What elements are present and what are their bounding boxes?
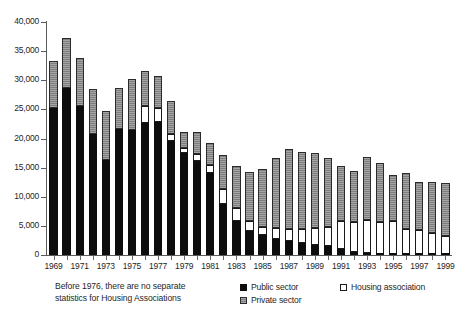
x-axis-tick xyxy=(341,256,342,260)
bar-segment-housing-association xyxy=(350,222,358,252)
bar-segment-public-sector xyxy=(180,153,188,255)
bar-segment-public-sector xyxy=(167,141,175,255)
x-axis-tick-label: 1993 xyxy=(354,261,380,271)
x-axis-tick-label: 1971 xyxy=(67,261,93,271)
x-axis-tick-label: 1973 xyxy=(93,261,119,271)
x-axis-tick xyxy=(145,256,146,260)
bar-segment-public-sector xyxy=(363,253,371,255)
x-axis-tick-label: 1997 xyxy=(406,261,432,271)
x-axis-tick xyxy=(171,256,172,260)
bar-segment-public-sector xyxy=(206,173,214,255)
x-axis-tick xyxy=(406,256,407,260)
x-axis-tick xyxy=(223,256,224,260)
bar-segment-housing-association xyxy=(258,227,266,235)
legend-label-private-sector: Private sector xyxy=(251,295,301,305)
bar-segment-private-sector xyxy=(245,172,253,222)
x-axis-tick xyxy=(393,256,394,260)
bar-segment-private-sector xyxy=(62,38,70,88)
bar-segment-public-sector xyxy=(428,253,436,255)
x-axis-tick xyxy=(236,256,237,260)
bar-1997 xyxy=(415,182,423,255)
bar-segment-public-sector xyxy=(128,130,136,255)
bar-segment-private-sector xyxy=(415,182,423,230)
bar-segment-private-sector xyxy=(180,132,188,148)
x-axis-tick xyxy=(276,256,277,260)
bar-segment-private-sector xyxy=(350,171,358,222)
bar-segment-public-sector xyxy=(311,245,319,255)
x-axis-tick xyxy=(328,256,329,260)
bar-segment-private-sector xyxy=(167,101,175,135)
bar-segment-private-sector xyxy=(102,111,110,160)
y-axis-tick-label: 25,000 xyxy=(0,103,39,113)
x-axis-tick xyxy=(419,256,420,260)
x-axis-tick xyxy=(263,256,264,260)
bar-1988 xyxy=(298,152,306,255)
x-axis-tick xyxy=(80,256,81,260)
bar-segment-private-sector xyxy=(441,183,449,236)
bar-segment-public-sector xyxy=(115,129,123,255)
bar-segment-public-sector xyxy=(272,239,280,255)
bar-segment-public-sector xyxy=(141,123,149,255)
legend-label-housing-association: Housing association xyxy=(351,282,425,292)
bar-segment-private-sector xyxy=(232,166,240,208)
bar-1994 xyxy=(376,163,384,255)
bar-1996 xyxy=(402,173,410,255)
black-square-icon xyxy=(240,284,247,291)
bar-1969 xyxy=(49,61,57,255)
legend-item-housing-association: Housing association xyxy=(340,282,425,292)
x-axis-tick-label: 1977 xyxy=(145,261,171,271)
x-axis-tick-label: 1987 xyxy=(276,261,302,271)
bar-1986 xyxy=(272,158,280,255)
bar-segment-private-sector xyxy=(376,163,384,222)
x-axis-tick xyxy=(289,256,290,260)
bar-segment-private-sector xyxy=(128,79,136,130)
bar-segment-housing-association xyxy=(232,208,240,221)
bar-segment-housing-association xyxy=(324,227,332,246)
bar-1999 xyxy=(441,183,449,255)
bar-segment-private-sector xyxy=(285,149,293,229)
bar-1985 xyxy=(258,169,266,255)
bar-segment-housing-association xyxy=(402,229,410,255)
x-axis-tick-label: 1995 xyxy=(380,261,406,271)
x-axis-tick xyxy=(158,256,159,260)
bar-segment-private-sector xyxy=(298,152,306,229)
grey-square-icon xyxy=(240,297,247,304)
x-axis-tick-label: 1999 xyxy=(432,261,458,271)
bar-segment-public-sector xyxy=(49,108,57,255)
x-axis-tick-label: 1969 xyxy=(41,261,67,271)
bar-1979 xyxy=(180,132,188,255)
bar-segment-public-sector xyxy=(324,246,332,255)
bar-segment-public-sector xyxy=(376,253,384,255)
x-axis-tick xyxy=(197,256,198,260)
bar-segment-housing-association xyxy=(337,221,345,249)
bar-segment-private-sector xyxy=(76,58,84,106)
bar-segment-private-sector xyxy=(154,76,162,109)
bar-segment-housing-association xyxy=(298,229,306,243)
bar-segment-housing-association xyxy=(219,189,227,204)
bar-1991 xyxy=(337,166,345,255)
bar-segment-public-sector xyxy=(76,106,84,255)
bar-segment-private-sector xyxy=(141,71,149,106)
bar-1984 xyxy=(245,172,253,255)
bar-segment-housing-association xyxy=(285,229,293,241)
bar-segment-housing-association xyxy=(363,220,371,253)
x-axis-tick-label: 1985 xyxy=(250,261,276,271)
bar-1983 xyxy=(232,166,240,255)
bar-1977 xyxy=(154,76,162,255)
x-axis-tick xyxy=(54,256,55,260)
x-axis-tick-label: 1975 xyxy=(119,261,145,271)
x-axis-tick-label: 1983 xyxy=(223,261,249,271)
bar-segment-public-sector xyxy=(415,253,423,255)
bar-segment-housing-association xyxy=(311,228,319,245)
bar-segment-private-sector xyxy=(219,155,227,189)
bar-segment-housing-association xyxy=(206,165,214,173)
bar-1998 xyxy=(428,182,436,255)
x-axis-tick xyxy=(119,256,120,260)
y-axis-tick-label: 30,000 xyxy=(0,74,39,84)
x-axis-tick-label: 1989 xyxy=(302,261,328,271)
bar-segment-private-sector xyxy=(402,173,410,229)
bar-segment-public-sector xyxy=(389,253,397,255)
bar-segment-public-sector xyxy=(441,253,449,255)
y-axis-tick-label: 40,000 xyxy=(0,16,39,26)
bar-segment-public-sector xyxy=(89,134,97,255)
